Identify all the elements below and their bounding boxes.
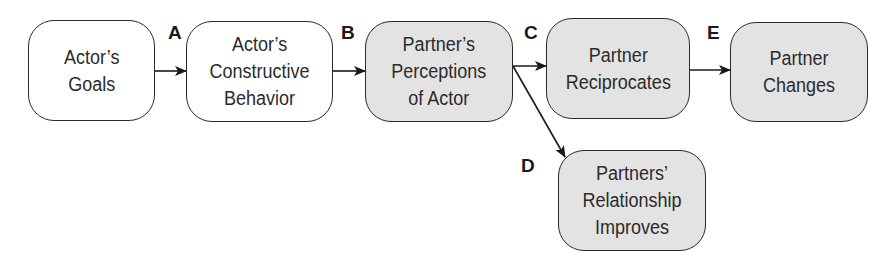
node-partner-reciprocates: Partner Reciprocates (546, 18, 690, 119)
node-label: Partners’ Relationship Improves (582, 160, 681, 241)
node-label: Actor’s Goals (64, 44, 119, 98)
node-label: Partner Reciprocates (565, 42, 670, 96)
edge-label-e: E (707, 22, 720, 44)
edge-label-c: C (524, 22, 538, 44)
node-label: Partner’s Perceptions of Actor (391, 31, 486, 112)
edge-label-a: A (168, 22, 182, 44)
node-label: Partner Changes (763, 45, 835, 99)
edge-label-b: B (341, 22, 355, 44)
node-actors-constructive-behavior: Actor’s Constructive Behavior (186, 21, 333, 122)
edge-label-d: D (521, 155, 535, 177)
node-actors-goals: Actor’s Goals (28, 20, 155, 121)
node-relationship-improves: Partners’ Relationship Improves (558, 150, 706, 251)
node-label: Actor’s Constructive Behavior (209, 31, 309, 112)
node-partner-changes: Partner Changes (730, 22, 868, 122)
node-partners-perceptions: Partner’s Perceptions of Actor (365, 21, 513, 122)
